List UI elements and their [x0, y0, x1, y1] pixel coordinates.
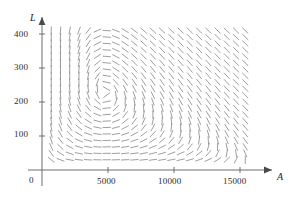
field-segment — [225, 118, 229, 124]
field-segment — [86, 40, 90, 46]
field-segment — [215, 60, 220, 65]
field-segment — [243, 54, 248, 59]
field-segment — [243, 112, 248, 118]
field-segment — [206, 92, 211, 98]
field-segment — [224, 92, 229, 98]
field-segment — [121, 153, 128, 154]
field-segment — [159, 41, 164, 46]
field-segment — [187, 54, 192, 60]
field-segment — [67, 138, 73, 142]
field-segment — [160, 131, 164, 137]
field-segment — [85, 126, 92, 129]
field-segment — [94, 48, 100, 52]
field-segment — [160, 86, 164, 92]
field-segment — [112, 147, 119, 148]
field-segment — [94, 54, 100, 58]
field-segment — [168, 152, 175, 155]
field-segment — [234, 112, 239, 118]
field-segment — [94, 29, 101, 32]
field-segment — [86, 34, 90, 40]
field-segment — [94, 61, 100, 66]
field-segment — [133, 85, 136, 92]
field-segment — [151, 124, 155, 131]
field-segment — [122, 67, 127, 72]
field-segment — [103, 101, 110, 102]
field-segment — [197, 47, 202, 52]
field-segment — [243, 118, 248, 124]
field-segment — [186, 159, 193, 161]
field-segment — [197, 54, 202, 60]
field-segment — [150, 131, 155, 136]
field-segment — [103, 114, 110, 115]
field-segment — [59, 124, 62, 131]
field-segment — [134, 98, 135, 105]
field-segment — [243, 67, 248, 72]
field-segment — [215, 28, 220, 33]
field-segment — [86, 28, 91, 34]
field-segment — [171, 117, 172, 124]
field-segment — [233, 92, 238, 98]
field-segment — [197, 105, 201, 111]
field-segment — [122, 29, 128, 33]
field-segment — [233, 86, 238, 91]
field-segment — [76, 125, 82, 130]
field-segment — [187, 73, 192, 79]
field-segment — [113, 67, 119, 71]
field-segment — [243, 125, 248, 131]
field-segment — [132, 54, 138, 59]
x-axis-label: A — [277, 171, 283, 182]
field-segment — [233, 80, 238, 85]
field-segment — [188, 105, 192, 112]
field-segment — [49, 150, 53, 156]
field-segment — [178, 73, 183, 79]
field-segment — [215, 67, 220, 73]
field-segment — [187, 67, 192, 73]
field-segment — [233, 47, 238, 52]
field-segment — [86, 47, 90, 53]
field-segment — [215, 99, 220, 105]
field-segment — [122, 133, 129, 135]
field-segment — [141, 54, 146, 59]
field-segment — [234, 125, 239, 131]
field-segment — [224, 67, 229, 72]
direction-field-plot: 400 300 200 100 0 5000 10000 15000 L A — [0, 0, 296, 203]
field-segment — [58, 144, 63, 149]
field-segment — [150, 47, 155, 52]
field-segment — [132, 67, 137, 73]
field-segment — [243, 73, 248, 78]
field-segment — [150, 54, 155, 59]
field-segment — [151, 66, 156, 72]
field-segment — [224, 47, 229, 52]
field-segment — [67, 125, 72, 131]
field-segment — [95, 67, 100, 72]
field-segment — [131, 139, 138, 141]
field-segment — [132, 73, 137, 79]
field-segment — [169, 79, 173, 85]
field-segment — [224, 73, 229, 78]
field-segment — [215, 112, 219, 118]
field-segment — [233, 28, 238, 33]
field-segment — [59, 131, 63, 138]
field-segment — [224, 157, 229, 162]
y-tick-label-300: 300 — [14, 62, 28, 72]
field-segment — [57, 159, 64, 162]
field-segment — [178, 47, 183, 52]
field-segment — [122, 126, 129, 129]
field-segment — [235, 143, 238, 150]
field-segment — [94, 133, 101, 134]
field-segment — [159, 138, 165, 143]
field-segment — [169, 86, 173, 92]
field-segment — [225, 112, 230, 118]
field-segment — [215, 54, 220, 59]
field-segment — [178, 66, 183, 72]
field-segment — [169, 60, 174, 66]
field-segment — [85, 112, 91, 117]
field-segment — [199, 130, 200, 137]
field-segment — [149, 152, 156, 154]
field-segment — [234, 156, 237, 163]
field-segment — [234, 105, 239, 111]
field-segment — [141, 41, 147, 46]
field-segment — [207, 118, 211, 125]
field-segment — [243, 99, 248, 104]
field-segment — [196, 34, 201, 39]
